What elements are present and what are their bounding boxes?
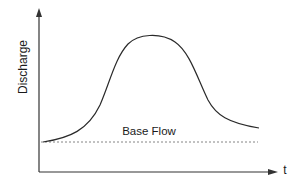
hydrograph-svg: Discharge t Base Flow bbox=[0, 0, 302, 183]
y-axis-arrow-icon bbox=[36, 8, 42, 17]
y-axis-label: Discharge bbox=[16, 40, 30, 94]
x-axis-label: t bbox=[283, 163, 287, 177]
x-axis-arrow-icon bbox=[268, 169, 278, 175]
hydrograph-diagram: Discharge t Base Flow bbox=[0, 0, 302, 183]
base-flow-label: Base Flow bbox=[122, 125, 176, 137]
